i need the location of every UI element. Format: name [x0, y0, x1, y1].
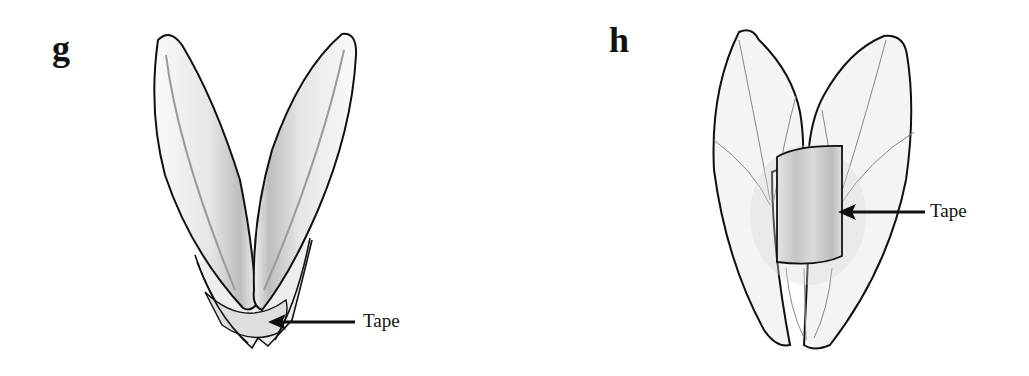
panel-g: g — [0, 0, 514, 376]
panel-h: h — [514, 0, 1029, 376]
tape-callout-g: Tape — [363, 311, 400, 330]
flower-illustration-g — [0, 0, 514, 376]
arrow-icon-g — [268, 314, 355, 330]
tape-callout-h: Tape — [930, 201, 967, 220]
flower-illustration-h — [514, 0, 1029, 376]
tape-h — [777, 146, 842, 264]
